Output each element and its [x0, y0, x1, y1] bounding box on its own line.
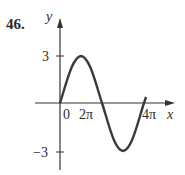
tick-label-0: 0 [63, 107, 70, 122]
y-axis-arrow-icon [57, 18, 63, 28]
tick-label-neg3: −3 [33, 145, 48, 160]
x-axis-arrow-icon [165, 100, 175, 106]
tick-label-2pi: 2π [79, 107, 93, 122]
sine-graph: y 3 −3 0 2π 4π x [0, 0, 185, 175]
y-axis-label: y [44, 9, 53, 24]
tick-label-3: 3 [42, 49, 49, 64]
x-axis-label: x [166, 107, 174, 122]
tick-label-4pi: 4π [142, 107, 156, 122]
